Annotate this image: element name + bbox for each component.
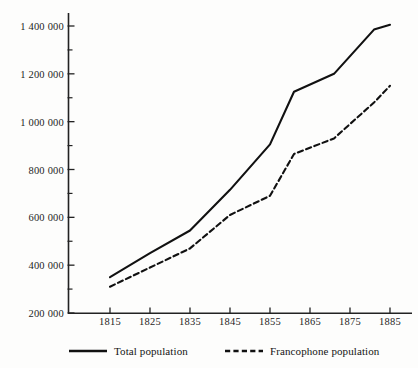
- axis-lines: [68, 13, 412, 314]
- y-tick-label-400000: 400 000: [28, 260, 64, 271]
- x-tick-label-1855: 1855: [259, 316, 281, 327]
- x-tick-label-1845: 1845: [219, 316, 241, 327]
- chart-legend: Total population Francophone population: [0, 339, 418, 363]
- series-line-total-population: [110, 25, 390, 277]
- y-tick-label-200000: 200 000: [28, 308, 64, 319]
- legend-label-total-population: Total population: [114, 345, 188, 357]
- y-tick-label-1000000: 1 000 000: [20, 116, 64, 127]
- x-tick-label-1875: 1875: [339, 316, 361, 327]
- legend-solid-line-icon: [69, 345, 107, 357]
- series-line-francophone-population: [110, 86, 390, 287]
- y-tick-label-1400000: 1 400 000: [20, 21, 64, 32]
- plot-area: 200 000400 000600 000800 0001 000 0001 2…: [0, 0, 418, 368]
- y-tick-label-800000: 800 000: [28, 164, 64, 175]
- legend-label-francophone-population: Francophone population: [270, 345, 379, 357]
- data-series-layer: [110, 25, 390, 287]
- x-tick-label-1815: 1815: [99, 316, 121, 327]
- legend-dashed-line-icon: [225, 345, 263, 357]
- x-tick-label-1825: 1825: [139, 316, 161, 327]
- y-tick-label-1200000: 1 200 000: [20, 68, 64, 79]
- y-tick-label-600000: 600 000: [28, 212, 64, 223]
- x-tick-label-1865: 1865: [299, 316, 321, 327]
- x-tick-label-1835: 1835: [179, 316, 201, 327]
- x-tick-label-1885: 1885: [379, 316, 401, 327]
- population-line-chart: 200 000400 000600 000800 0001 000 0001 2…: [0, 0, 418, 368]
- legend-item-francophone-population: Francophone population: [225, 339, 379, 363]
- legend-item-total-population: Total population: [69, 339, 188, 363]
